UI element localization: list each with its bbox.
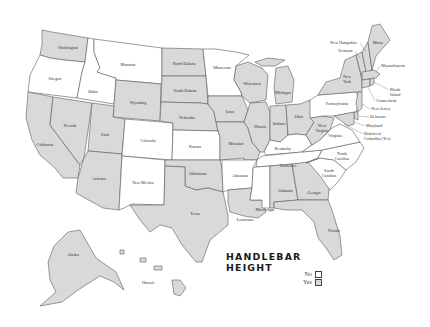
state-hawaii[interactable]	[120, 250, 186, 296]
legend-label-no: No	[304, 271, 311, 277]
state-connecticut[interactable]	[362, 79, 370, 88]
label-wisconsin: Wisconsin	[243, 81, 261, 86]
legend-label-yes: Yes	[303, 279, 312, 285]
label-idaho: Idaho	[88, 89, 98, 94]
label-wyoming: Wyoming	[130, 100, 147, 105]
us-map: Washington Oregon California Idaho Nevad…	[0, 0, 430, 327]
label-montana: Montana	[121, 62, 136, 67]
label-alaska: Alaska	[67, 252, 79, 257]
state-delaware[interactable]	[354, 112, 358, 120]
label-new-hampshire: New Hampshire	[330, 40, 357, 45]
label-new-mexico: New Mexico	[132, 180, 154, 185]
label-south-dakota: South Dakota	[174, 88, 197, 93]
label-arizona: Arizona	[92, 176, 106, 181]
label-north-dakota: North Dakota	[173, 61, 196, 66]
legend-item-yes: Yes	[303, 278, 322, 286]
label-north-carolina-2: Carolina	[335, 156, 350, 161]
leader-line	[374, 82, 389, 90]
leader-line	[358, 116, 369, 117]
label-nebraska: Nebraska	[179, 115, 195, 120]
state-rhode-island[interactable]	[370, 78, 374, 86]
label-dc-2: Columbia (Yes)	[364, 136, 391, 141]
label-oklahoma: Oklahoma	[189, 171, 207, 176]
label-kansas: Kansas	[189, 144, 201, 149]
label-arkansas: Arkansas	[232, 173, 248, 178]
state-alaska[interactable]	[40, 230, 124, 306]
label-new-york-2: York	[343, 79, 352, 84]
label-massachusetts: Massachusetts	[381, 63, 406, 68]
label-california: California	[37, 142, 54, 147]
title-line-2: HEIGHT	[226, 263, 302, 274]
label-utah: Utah	[101, 132, 110, 137]
label-illinois: Illinois	[254, 124, 266, 129]
label-louisiana: Louisiana	[237, 217, 254, 222]
map-title: HANDLEBAR HEIGHT	[226, 252, 302, 273]
title-line-1: HANDLEBAR	[226, 252, 302, 263]
label-colorado: Colorado	[140, 138, 156, 143]
label-mississippi: Mississippi	[255, 207, 275, 212]
state-new-york[interactable]	[318, 55, 362, 95]
label-michigan: Michigan	[275, 90, 292, 95]
label-hawaii: Hawaii	[142, 280, 155, 285]
label-rhode-island-2: Island	[390, 92, 401, 97]
label-texas: Texas	[190, 211, 200, 216]
label-florida: Florida	[328, 228, 340, 233]
leader-line	[362, 104, 370, 109]
label-new-jersey: New Jersey	[371, 106, 391, 111]
leader-line	[368, 87, 375, 101]
legend-swatch-yes	[315, 279, 322, 286]
label-kentucky: Kentucky	[275, 146, 292, 151]
label-ohio: Ohio	[295, 114, 303, 119]
label-maryland: Maryland	[366, 123, 383, 128]
legend-swatch-no	[315, 271, 322, 278]
label-minnesota: Minnesota	[213, 65, 231, 70]
label-nevada: Nevada	[64, 123, 77, 128]
leader-line	[354, 122, 365, 126]
label-virginia: Virginia	[328, 133, 342, 138]
label-delaware: Delaware	[370, 114, 386, 119]
label-iowa: Iowa	[226, 109, 235, 114]
label-pennsylvania: Pennsylvania	[326, 101, 348, 106]
label-georgia: Georgia	[307, 190, 321, 195]
label-maine: Maine	[373, 40, 384, 45]
label-alabama: Alabama	[277, 188, 292, 193]
label-missouri: Missouri	[229, 141, 245, 146]
leader-line	[376, 66, 380, 72]
label-west-virginia-2: Virginia	[315, 128, 329, 133]
label-south-carolina-2: Carolina	[322, 173, 337, 178]
label-indiana: Indiana	[273, 121, 286, 126]
legend-item-no: No	[303, 270, 322, 278]
label-washington: Washington	[58, 45, 79, 50]
label-tennessee: Tennessee	[279, 163, 296, 168]
label-connecticut: Connecticut	[376, 98, 397, 103]
label-oregon: Oregon	[49, 76, 62, 81]
legend: No Yes	[303, 270, 322, 286]
label-vermont: Vermont	[338, 48, 353, 53]
